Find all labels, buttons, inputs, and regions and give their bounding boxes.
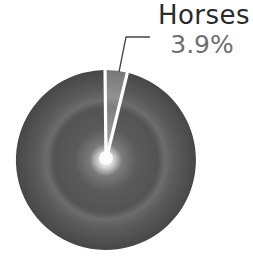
slice-gap-left <box>105 66 106 160</box>
slice-label-percent: 3.9% <box>150 32 253 57</box>
center-glow <box>99 151 113 165</box>
leader-line <box>119 37 150 72</box>
slice-label-name: Horses <box>154 2 253 28</box>
slice-label-horses: Horses 3.9% <box>154 2 253 57</box>
